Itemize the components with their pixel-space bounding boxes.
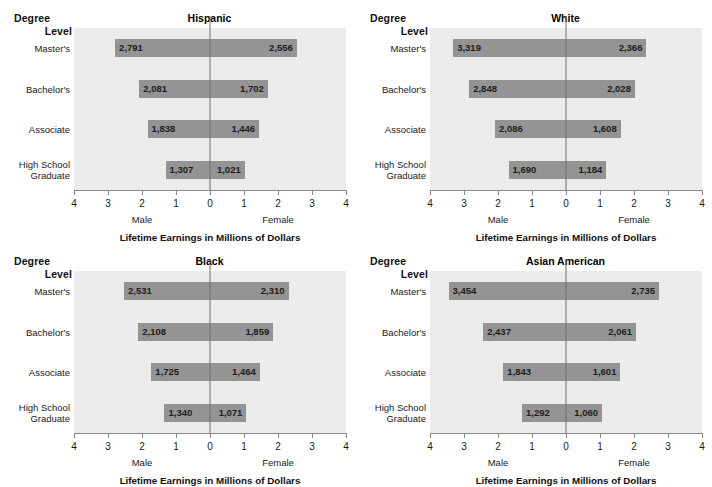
chart-grid: DegreeLevelHispanicMaster'sBachelor'sAss… bbox=[0, 0, 712, 487]
bar-male: 1,690 bbox=[509, 161, 566, 179]
bar-value-label: 1,690 bbox=[513, 165, 537, 175]
bar-value-label: 1,060 bbox=[574, 408, 598, 418]
category-label: High SchoolGraduate bbox=[2, 402, 70, 424]
bar-value-label: 1,021 bbox=[217, 165, 241, 175]
bar-male: 2,791 bbox=[115, 39, 210, 57]
x-axis-tick-label: 3 bbox=[105, 198, 111, 209]
bar-value-label: 1,340 bbox=[168, 408, 192, 418]
x-axis-line bbox=[430, 433, 702, 434]
chart-panel-asian-american: DegreeLevelAsian AmericanMaster'sBachelo… bbox=[356, 243, 712, 487]
x-axis: 432101234MaleFemaleLifetime Earnings in … bbox=[0, 433, 356, 487]
chart-title: Hispanic bbox=[0, 12, 356, 24]
x-axis-tick bbox=[312, 190, 313, 195]
bar-male: 1,292 bbox=[522, 404, 566, 422]
x-axis: 432101234MaleFemaleLifetime Earnings in … bbox=[0, 190, 356, 244]
bar-value-label: 1,859 bbox=[245, 327, 269, 337]
x-axis-tick bbox=[244, 433, 245, 438]
bar-value-label: 1,725 bbox=[155, 367, 179, 377]
bar-female: 1,859 bbox=[210, 323, 273, 341]
category-label: Associate bbox=[358, 124, 426, 135]
zero-axis-line bbox=[566, 16, 567, 190]
bar-value-label: 1,446 bbox=[231, 124, 255, 134]
x-axis-tick bbox=[278, 190, 279, 195]
bar-value-label: 1,464 bbox=[232, 367, 256, 377]
category-axis-labels: Master'sBachelor'sAssociateHigh SchoolGr… bbox=[358, 271, 426, 433]
x-axis-tick-label: 4 bbox=[71, 198, 77, 209]
x-axis-title: Lifetime Earnings in Millions of Dollars bbox=[74, 232, 346, 243]
x-axis-tick-label: 1 bbox=[173, 198, 179, 209]
x-axis-tick-label: 2 bbox=[139, 198, 145, 209]
x-axis-tick-label: 3 bbox=[309, 441, 315, 452]
bar-female: 1,702 bbox=[210, 80, 268, 98]
bar-value-label: 2,086 bbox=[499, 124, 523, 134]
x-axis-tick-label: 4 bbox=[343, 441, 349, 452]
x-axis-tick-label: 3 bbox=[461, 198, 467, 209]
x-axis-tick-label: 3 bbox=[461, 441, 467, 452]
bar-female: 1,601 bbox=[566, 363, 620, 381]
bar-value-label: 1,292 bbox=[526, 408, 550, 418]
x-axis-tick bbox=[176, 433, 177, 438]
bar-male: 1,843 bbox=[503, 363, 566, 381]
bar-male: 1,838 bbox=[148, 120, 210, 138]
bar-female: 1,464 bbox=[210, 363, 260, 381]
x-axis-tick-label: 0 bbox=[207, 441, 213, 452]
bar-value-label: 2,081 bbox=[143, 84, 167, 94]
x-axis-tick bbox=[668, 433, 669, 438]
bar-value-label: 1,601 bbox=[593, 367, 617, 377]
bar-female: 2,735 bbox=[566, 282, 659, 300]
bar-female: 2,061 bbox=[566, 323, 636, 341]
x-axis-tick bbox=[108, 190, 109, 195]
x-axis-tick bbox=[498, 190, 499, 195]
x-axis-tick bbox=[74, 433, 75, 438]
x-axis-tick-label: 0 bbox=[563, 198, 569, 209]
bar-value-label: 2,108 bbox=[142, 327, 166, 337]
bar-male: 1,307 bbox=[166, 161, 210, 179]
bar-value-label: 1,071 bbox=[219, 408, 243, 418]
x-axis-tick bbox=[210, 433, 211, 438]
bar-male: 1,725 bbox=[151, 363, 210, 381]
x-axis-tick-label: 3 bbox=[665, 441, 671, 452]
bar-female: 2,556 bbox=[210, 39, 297, 57]
bar-female: 1,184 bbox=[566, 161, 606, 179]
bar-value-label: 2,735 bbox=[631, 286, 655, 296]
chart-panel-black: DegreeLevelBlackMaster'sBachelor'sAssoci… bbox=[0, 243, 356, 487]
x-axis-tick bbox=[532, 190, 533, 195]
bar-value-label: 3,319 bbox=[457, 43, 481, 53]
plot-area: 3,4542,7352,4372,0611,8431,6011,2921,060 bbox=[430, 271, 702, 433]
bar-value-label: 2,531 bbox=[128, 286, 152, 296]
x-axis-tick-label: 1 bbox=[529, 198, 535, 209]
bar-male: 1,340 bbox=[164, 404, 210, 422]
category-label: High SchoolGraduate bbox=[358, 402, 426, 424]
x-axis-tick-label: 4 bbox=[699, 441, 705, 452]
female-axis-label: Female bbox=[262, 214, 294, 225]
bar-female: 1,021 bbox=[210, 161, 245, 179]
x-axis-tick-label: 4 bbox=[699, 198, 705, 209]
category-label: Bachelor's bbox=[358, 326, 426, 337]
x-axis-tick-label: 3 bbox=[105, 441, 111, 452]
bar-value-label: 2,366 bbox=[619, 43, 643, 53]
x-axis-tick bbox=[142, 433, 143, 438]
bar-value-label: 2,061 bbox=[608, 327, 632, 337]
x-axis-tick-label: 1 bbox=[597, 198, 603, 209]
x-axis-tick bbox=[430, 433, 431, 438]
category-label: High SchoolGraduate bbox=[2, 159, 70, 181]
category-axis-labels: Master'sBachelor'sAssociateHigh SchoolGr… bbox=[2, 271, 70, 433]
x-axis: 432101234MaleFemaleLifetime Earnings in … bbox=[356, 190, 712, 244]
x-axis-tick-label: 3 bbox=[665, 198, 671, 209]
bar-male: 2,086 bbox=[495, 120, 566, 138]
x-axis-tick bbox=[566, 433, 567, 438]
male-axis-label: Male bbox=[132, 214, 153, 225]
bar-value-label: 2,437 bbox=[487, 327, 511, 337]
bar-value-label: 1,307 bbox=[170, 165, 194, 175]
category-label: High SchoolGraduate bbox=[358, 159, 426, 181]
x-axis-tick-label: 2 bbox=[495, 198, 501, 209]
x-axis-tick-label: 3 bbox=[309, 198, 315, 209]
x-axis-tick bbox=[600, 190, 601, 195]
x-axis-tick-label: 2 bbox=[275, 441, 281, 452]
x-axis-tick-label: 4 bbox=[427, 441, 433, 452]
zero-axis-line bbox=[210, 16, 211, 190]
plot-area: 3,3192,3662,8482,0282,0861,6081,6901,184 bbox=[430, 28, 702, 190]
x-axis-tick-label: 2 bbox=[631, 441, 637, 452]
x-axis-title: Lifetime Earnings in Millions of Dollars bbox=[430, 475, 702, 486]
bar-value-label: 1,608 bbox=[593, 124, 617, 134]
